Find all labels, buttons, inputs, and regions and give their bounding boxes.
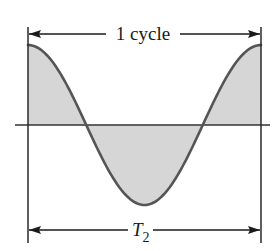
- period-label-subscript: 2: [143, 230, 150, 245]
- cycle-diagram: 1 cycle T2: [0, 0, 278, 251]
- period-label: T2: [132, 219, 150, 245]
- cycle-label: 1 cycle: [116, 23, 170, 44]
